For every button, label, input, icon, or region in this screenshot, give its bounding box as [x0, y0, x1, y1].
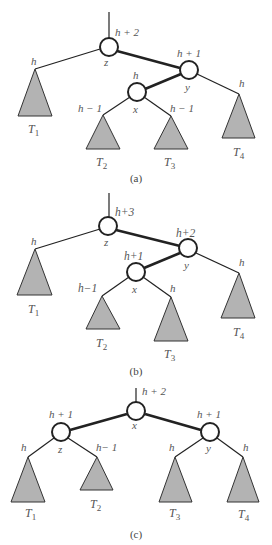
subtree-t1 — [17, 249, 52, 295]
node-x — [128, 83, 146, 101]
edge-x-z — [70, 414, 127, 430]
node-label-y: y — [184, 81, 190, 93]
height-label-z: h+3 — [115, 206, 135, 218]
node-y — [180, 61, 198, 79]
height-label-z: h + 1 — [49, 408, 73, 420]
edge-z-t1 — [35, 229, 100, 249]
subtree-t1 — [11, 457, 45, 502]
node-label-x: x — [131, 283, 137, 295]
node-label-y: y — [183, 259, 189, 271]
caption-a: (a) — [130, 172, 143, 185]
height-label-t1: h — [31, 235, 37, 247]
height-label-t4: h — [239, 256, 245, 268]
height-label-t4: h — [239, 77, 245, 89]
panel-c: h + 2 x h + 1 z h + 1 y h h− 1 h h T1 T2… — [11, 385, 259, 541]
subtree-name-t3: T3 — [164, 347, 176, 363]
panel-b: h+3 z h+2 y h+1 x h h−1 h h T1 T2 T3 T4 … — [17, 193, 255, 378]
height-label-x: h+1 — [124, 250, 143, 262]
node-y — [179, 239, 197, 257]
edge-x-t3 — [143, 277, 171, 297]
height-label-t4: h — [243, 441, 249, 453]
edge-x-t2 — [103, 97, 130, 115]
subtree-t4 — [222, 94, 255, 138]
subtree-name-t4: T4 — [233, 325, 245, 341]
node-z — [52, 423, 70, 441]
height-label-t2: h− 1 — [96, 441, 117, 453]
height-label-t2: h−1 — [78, 282, 97, 294]
subtree-t2 — [80, 457, 113, 490]
edge-y-t4 — [197, 74, 239, 94]
height-label-t3: h − 1 — [170, 102, 194, 114]
node-label-y: y — [205, 442, 211, 454]
subtree-name-t3: T3 — [164, 155, 176, 171]
node-label-z: z — [103, 56, 109, 68]
edge-x-t2 — [102, 277, 129, 296]
height-label-t3: h — [170, 282, 176, 294]
edge-y-t4 — [217, 438, 243, 457]
subtree-name-t2: T2 — [96, 155, 107, 171]
node-label-x: x — [131, 419, 137, 431]
edge-y-x — [145, 74, 181, 89]
node-label-z: z — [103, 236, 109, 248]
height-label-y: h + 1 — [177, 47, 201, 59]
height-label-z: h + 2 — [115, 26, 139, 38]
avl-rotation-figure: h + 2 z h + 1 y h x h h − 1 h − 1 h T1 T… — [0, 0, 272, 545]
node-z — [99, 217, 117, 235]
subtree-name-t4: T4 — [238, 507, 250, 523]
node-label-z: z — [57, 443, 63, 455]
subtree-name-t1: T1 — [25, 506, 36, 522]
edge-z-t1 — [28, 438, 54, 457]
panel-a: h + 2 z h + 1 y h x h h − 1 h − 1 h T1 T… — [18, 12, 255, 185]
edge-x-t3 — [144, 97, 171, 116]
edge-z-y — [116, 230, 180, 246]
subtree-name-t1: T1 — [28, 302, 39, 318]
subtree-name-t2: T2 — [96, 336, 107, 352]
caption-c: (c) — [130, 528, 143, 541]
subtree-t3 — [154, 297, 188, 341]
node-label-x: x — [132, 103, 138, 115]
edge-y-x — [144, 253, 180, 268]
node-y — [201, 423, 219, 441]
node-x — [127, 263, 145, 281]
subtree-t1 — [18, 69, 52, 116]
node-z — [100, 38, 118, 56]
subtree-t3 — [159, 457, 192, 502]
height-label-x: h — [133, 69, 139, 81]
subtree-t3 — [154, 116, 188, 149]
height-label-t1: h — [31, 55, 37, 67]
edge-x-y — [145, 414, 201, 430]
node-x — [127, 402, 145, 420]
caption-b: (b) — [130, 365, 143, 378]
subtree-name-t3: T3 — [169, 506, 181, 522]
subtree-name-t2: T2 — [90, 497, 101, 513]
subtree-t4 — [227, 457, 259, 502]
height-label-t2: h − 1 — [78, 102, 102, 114]
height-label-y: h+2 — [176, 227, 196, 239]
subtree-name-t1: T1 — [28, 122, 39, 138]
edge-y-t4 — [196, 253, 239, 273]
height-label-t1: h — [21, 441, 27, 453]
edge-y-t3 — [175, 438, 203, 457]
subtree-t4 — [221, 273, 255, 318]
height-label-t3: h — [169, 441, 175, 453]
subtree-name-t4: T4 — [233, 145, 245, 161]
edge-z-t1 — [35, 49, 100, 69]
height-label-y: h + 1 — [197, 408, 221, 420]
edge-z-y — [117, 51, 180, 68]
height-label-x: h + 2 — [142, 385, 166, 397]
subtree-t2 — [86, 296, 120, 329]
edge-z-t2 — [68, 438, 97, 457]
subtree-t2 — [86, 115, 120, 149]
